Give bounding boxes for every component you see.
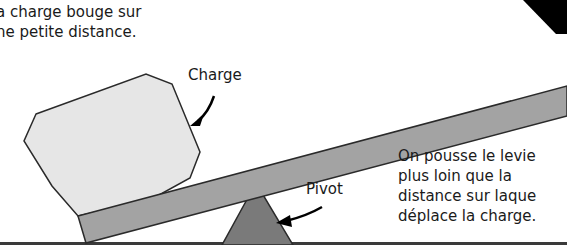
- charge-label: Charge: [188, 66, 242, 84]
- caption-line: a charge bouge sur: [0, 2, 142, 22]
- caption-line: plus loin que la: [398, 166, 536, 186]
- caption-line: déplace la charge.: [398, 206, 536, 226]
- caption-line: distance sur laque: [398, 186, 536, 206]
- charge-pointer-arrow-icon: [190, 96, 214, 126]
- effort-motion-caption: On pousse le levie plus loin que la dist…: [398, 146, 536, 226]
- lever-diagram: a charge bouge sur ne petite distance. O…: [0, 0, 567, 245]
- pivot-pointer-arrow-icon: [276, 207, 322, 227]
- pivot-label: Pivot: [306, 180, 343, 198]
- effort-arrow-icon: [523, 0, 567, 34]
- caption-line: On pousse le levie: [398, 146, 536, 166]
- caption-line: ne petite distance.: [0, 22, 142, 42]
- load-motion-caption: a charge bouge sur ne petite distance.: [0, 2, 142, 42]
